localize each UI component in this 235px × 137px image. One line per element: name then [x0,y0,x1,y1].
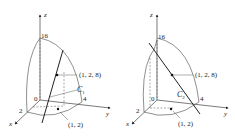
x-label: x [125,120,130,128]
surface-back-edge [40,38,82,102]
origin-label: 0 [151,95,155,103]
x-tick-2: 2 [19,107,23,115]
y-tick-4: 4 [83,95,87,103]
x-tick-2: 2 [136,107,140,115]
z-tick-16: 16 [158,33,166,41]
y-label: y [223,110,228,118]
z-label: z [149,11,153,19]
origin-label: 0 [34,95,38,103]
y-tick-4: 4 [200,95,204,103]
x-label: x [8,120,13,128]
surface-front-edge [143,56,150,112]
y-label: y [105,110,110,118]
point-marker [56,74,59,77]
leader-base [173,111,180,118]
surface-top-edge [150,40,157,56]
right-figure: z y x 16 4 2 0 (1, 2, 8) (1, 2) C2 [125,11,228,128]
leader-base [60,112,68,120]
left-figure: z y x 16 4 2 0 (1, 2, 8) (1, 2) C1 [8,11,110,129]
z-tick-16: 16 [41,32,49,40]
base-point-label: (1, 2) [178,120,194,128]
curve-label: C1 [77,85,85,95]
curve-c1 [42,50,63,123]
point-label: (1, 2, 8) [195,71,218,79]
point-marker [171,74,174,77]
dashed-base [33,106,64,107]
diagram-canvas: z y x 16 4 2 0 (1, 2, 8) (1, 2) C1 z y x… [0,0,235,137]
z-label: z [43,11,47,19]
base-point-marker [57,108,59,110]
point-label: (1, 2, 8) [79,71,102,79]
base-point-marker [170,108,172,110]
base-point-label: (1, 2) [68,121,84,129]
leader-curve [50,90,77,97]
curve-c2 [149,43,200,114]
